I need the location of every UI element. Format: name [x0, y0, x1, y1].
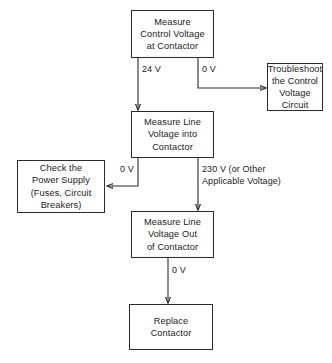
edge-label-24v: 24 V	[142, 64, 161, 76]
edge-label-0v-power-supply: 0 V	[120, 164, 134, 176]
node-replace-contactor[interactable]: Replace Contactor	[129, 304, 213, 350]
node-troubleshoot-control-circuit-label: Troubleshoot the Control Voltage Circuit	[268, 63, 323, 112]
flowchart-canvas: Measure Control Voltage at Contactor Tro…	[0, 0, 332, 363]
edge-label-0v-troubleshoot: 0 V	[202, 64, 216, 76]
node-measure-line-voltage-into[interactable]: Measure Line Voltage into Contactor	[131, 111, 214, 158]
node-measure-line-voltage-out[interactable]: Measure Line Voltage Out of Contactor	[131, 211, 214, 258]
node-check-power-supply[interactable]: Check the Power Supply (Fuses, Circuit B…	[17, 160, 105, 213]
node-replace-contactor-label: Replace Contactor	[151, 315, 192, 339]
node-troubleshoot-control-circuit[interactable]: Troubleshoot the Control Voltage Circuit	[267, 63, 323, 111]
node-measure-line-voltage-out-label: Measure Line Voltage Out of Contactor	[144, 216, 201, 253]
node-measure-control-voltage[interactable]: Measure Control Voltage at Contactor	[131, 10, 214, 58]
edge-label-230v: 230 V (or Other Applicable Voltage)	[202, 164, 281, 187]
node-measure-line-voltage-into-label: Measure Line Voltage into Contactor	[144, 116, 201, 153]
node-check-power-supply-label: Check the Power Supply (Fuses, Circuit B…	[31, 162, 92, 211]
node-measure-control-voltage-label: Measure Control Voltage at Contactor	[140, 16, 204, 53]
edge-label-0v-replace: 0 V	[172, 265, 186, 277]
